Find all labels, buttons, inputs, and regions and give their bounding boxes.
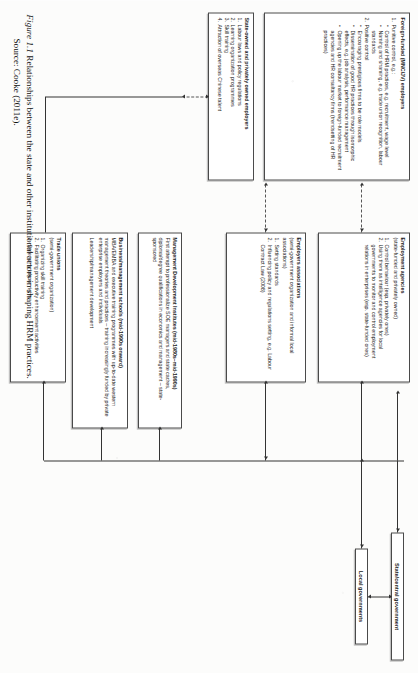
local-governments-box: Local governments bbox=[355, 548, 368, 644]
figure-page: State/central government Local governmen… bbox=[0, 0, 418, 673]
item-text: Using them as intelligence agencies for … bbox=[364, 244, 384, 358]
local-governments-label: Local governments bbox=[359, 570, 365, 621]
employment-agencies-list: 1. Control behaviour (esp. privately one… bbox=[363, 237, 390, 377]
list-item: 2. Learning organization programmes bbox=[230, 17, 237, 175]
diagram-canvas: State/central government Local governmen… bbox=[0, 0, 418, 673]
foreign-funded-header: Foreign-funded (MNC/JV) employers bbox=[399, 17, 406, 175]
trade-unions-subheader: (semi-government organization) bbox=[48, 237, 55, 377]
item-number: 3. bbox=[223, 17, 230, 21]
connector-spine-to-state bbox=[397, 392, 398, 460]
list-item: 2. Influencing policy and regulations se… bbox=[259, 237, 273, 377]
employers-associations-box: Employers associations (semi-government … bbox=[226, 232, 306, 382]
employment-agencies-subheader: (state-funded and privately owned) bbox=[392, 237, 399, 377]
dashed-link-stateowned-mdi bbox=[182, 96, 208, 97]
dashed-link-foreign-employment bbox=[361, 184, 362, 232]
item-text: Positive control bbox=[364, 24, 370, 60]
arrow-up-local-to-state bbox=[389, 594, 392, 598]
arrow-right-stateowned-associations bbox=[264, 228, 268, 231]
item-text: Influencing policy and regulations setti… bbox=[260, 244, 273, 369]
item-number: 1. bbox=[236, 17, 243, 21]
employers-associations-list: 1. Setting standards 2. Influencing poli… bbox=[259, 237, 279, 377]
item-text: Setting standards bbox=[274, 244, 280, 285]
connector-state-to-spine bbox=[397, 460, 398, 532]
arrow-left-state bbox=[396, 390, 400, 393]
foreign-funded-item-1: 1. Punitive control, e.g.: bbox=[390, 17, 397, 175]
state-central-government-label: State/central government bbox=[395, 562, 401, 629]
arrow-right-state bbox=[396, 528, 400, 531]
arrow-right-foreign-employment bbox=[360, 228, 364, 231]
list-item: 2. Using them as intelligence agencies f… bbox=[363, 237, 383, 377]
list-item: 3. Skill training bbox=[223, 17, 230, 175]
item-text: Skill training bbox=[224, 24, 230, 53]
connector-spine-vertical bbox=[44, 460, 404, 461]
item-text: Control behaviour (esp. privately ones) bbox=[384, 244, 390, 335]
foreign-funded-employers-box: Foreign-funded (MNC/JV) employers 1. Pun… bbox=[264, 12, 410, 180]
employers-associations-subheader: (semi-government organization and inform… bbox=[282, 237, 296, 377]
connector-business-schools-spine bbox=[101, 428, 102, 460]
arrow-down-state-to-local bbox=[368, 594, 371, 598]
employers-associations-header: Employers associations bbox=[295, 237, 302, 377]
connector-schools-feeder-vertical bbox=[46, 96, 182, 97]
mdi-body: First attempt to professionalize SOE man… bbox=[152, 237, 172, 400]
arrow-left-business-schools bbox=[100, 426, 104, 429]
item-text: Attraction of overseas Chinese talent bbox=[217, 24, 223, 111]
foreign-funded-bullets-2: Encouraging prestigious firms to be role… bbox=[323, 17, 364, 175]
connector-trade-unions-spine bbox=[43, 382, 44, 460]
list-item: Encouraging prestigious firms to be role… bbox=[356, 24, 363, 175]
arrow-left-employers-associations bbox=[264, 380, 268, 383]
item-number: 2. bbox=[230, 17, 237, 21]
figure-title: Relationships between the state and othe… bbox=[25, 55, 35, 379]
list-item: 1. Labour laws and policy regulations bbox=[236, 17, 243, 175]
list-item: Opening up the labour market to foreign-… bbox=[323, 24, 343, 175]
employment-agencies-box: Employment agencies (state-funded and pr… bbox=[318, 232, 410, 382]
trade-unions-header: Trade unions bbox=[55, 237, 62, 377]
list-item: Naming and shaming, e.g. trade union rec… bbox=[370, 24, 384, 175]
figure-source: Source: Cooke (2011e). bbox=[9, 14, 22, 378]
management-development-institutes-box: Management Development Institutes (mid-1… bbox=[138, 232, 182, 428]
list-item: 4. Attraction of overseas Chinese talent bbox=[216, 17, 223, 175]
item-text: Punitive control, e.g.: bbox=[391, 24, 397, 73]
state-central-government-box: State/central government bbox=[391, 532, 404, 660]
business-schools-header: Business/management schools (mid-1990s o… bbox=[117, 237, 124, 423]
business-management-schools-box: Business/management schools (mid-1990s o… bbox=[72, 232, 128, 428]
item-number: 1. bbox=[273, 237, 280, 241]
foreign-funded-item-2: 2. Positive control bbox=[363, 17, 370, 175]
item-text: Organizing skill training bbox=[40, 244, 46, 299]
item-number: 1. bbox=[40, 237, 47, 241]
item-number: 2. bbox=[377, 237, 384, 241]
mdi-header: Management Development Institutes (mid-1… bbox=[171, 237, 178, 423]
connector-local-to-state-vertical bbox=[368, 596, 391, 597]
arrow-down-mdi bbox=[182, 94, 185, 98]
figure-number: Figure 1.1 bbox=[25, 14, 35, 52]
connector-employment-agencies-spine bbox=[361, 382, 362, 460]
list-item: Dissemination of good HR practices throu… bbox=[343, 24, 357, 175]
item-number: 4. bbox=[216, 17, 223, 21]
item-text: Labour laws and policy regulations bbox=[237, 24, 243, 105]
item-text: Learning organization programmes bbox=[230, 24, 236, 106]
connector-schools-feeder-to-trade bbox=[45, 96, 46, 232]
connector-spine-to-local bbox=[361, 460, 362, 548]
arrow-left-stateowned-associations bbox=[264, 182, 268, 185]
item-number: 1. bbox=[390, 17, 397, 21]
list-item: 1. Setting standards bbox=[273, 237, 280, 377]
state-owned-employers-box: State-owned and privately owned employer… bbox=[208, 12, 254, 180]
item-number: 1. bbox=[384, 237, 391, 241]
arrow-right-local bbox=[360, 544, 364, 547]
business-schools-footer: Leadership/management development bbox=[89, 237, 95, 327]
connector-employers-associations-spine bbox=[265, 382, 266, 460]
arrow-right-employers-associations bbox=[264, 456, 268, 459]
connector-mdi-spine bbox=[159, 428, 160, 460]
dashed-link-stateowned-associations bbox=[265, 184, 266, 232]
arrow-up-stateowned bbox=[206, 94, 209, 98]
list-item: 1. Organizing skill training bbox=[40, 237, 47, 377]
arrow-left-mdi bbox=[158, 426, 162, 429]
list-item: Control of HRM practices, e.g. recruitme… bbox=[384, 24, 391, 175]
state-owned-list: 1. Labour laws and policy regulations 2.… bbox=[216, 17, 243, 175]
foreign-funded-bullets-1: Control of HRM practices, e.g. recruitme… bbox=[370, 17, 390, 175]
arrow-left-trade-unions bbox=[42, 380, 46, 383]
arrow-left-foreign-employment bbox=[360, 182, 364, 185]
business-schools-body: MBA/EMBA and executive training programm… bbox=[98, 237, 118, 416]
arrow-left-employment-agencies bbox=[360, 380, 364, 383]
item-number: 2. bbox=[363, 17, 370, 21]
item-number: 2. bbox=[266, 237, 273, 241]
